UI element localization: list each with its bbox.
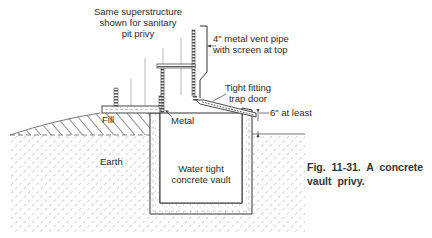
- seat-riser: [157, 64, 195, 112]
- trap-door-label-line1: Tight fitting: [222, 82, 274, 93]
- fill-region: [10, 113, 150, 135]
- metal-label: Metal: [171, 115, 194, 126]
- trap-door-label: Tight fitting trap door: [222, 82, 274, 104]
- vent-pipe-label-line2: with screen at top: [213, 44, 289, 55]
- vent-pipe: [192, 26, 207, 104]
- vault-label: Water tight concrete vault: [166, 163, 236, 185]
- superstructure-lines: [131, 38, 181, 106]
- floor-slab: [102, 106, 160, 113]
- vault-label-line2: concrete vault: [166, 174, 236, 185]
- trap-door-label-line2: trap door: [222, 93, 274, 104]
- vent-pipe-label: 4" metal vent pipe with screen at top: [213, 33, 289, 55]
- vent-pipe-label-line1: 4" metal vent pipe: [213, 33, 289, 44]
- superstructure-label: Same superstructure shown for sanitary p…: [88, 6, 188, 39]
- concrete-vault: [150, 108, 252, 214]
- superstructure-label-line1: Same superstructure: [88, 6, 188, 17]
- superstructure-label-line2: shown for sanitary: [88, 17, 188, 28]
- superstructure-label-line3: pit privy: [88, 28, 188, 39]
- fill-label: Fill: [102, 114, 114, 125]
- vault-label-line1: Water tight: [166, 163, 236, 174]
- earth-label: Earth: [100, 156, 123, 167]
- brick-stub-left: [114, 88, 118, 106]
- clearance-label: 6" at least: [270, 107, 312, 118]
- figure-caption: Fig. 11-31. A concrete vault privy.: [307, 160, 429, 188]
